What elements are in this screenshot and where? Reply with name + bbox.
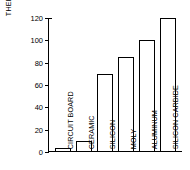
y-tick-mark [45,40,49,41]
y-tick-label: 80 [35,58,43,67]
bar-chart: THERMAL CONDUCTIVE (BTU/HR FT °F) 020406… [0,0,190,170]
y-tick-label: 60 [35,81,43,90]
y-axis-title: THERMAL CONDUCTIVE (BTU/HR FT °F) [2,0,24,40]
y-tick-mark [45,107,49,108]
y-tick-mark [45,152,49,153]
y-tick-label: 40 [35,103,43,112]
bar-label: SILICON CARBIDE [172,85,179,149]
y-axis-title-line-1: THERMAL CONDUCTIVE [5,0,13,16]
bar-label: CERAMIC [88,115,95,149]
bar-label: SILICON [109,120,116,149]
plot-area: 020406080100120 CIRCUIT BOARDCERAMICSILI… [48,18,182,152]
y-tick-label: 120 [30,14,43,23]
y-tick-label: 0 [39,148,43,157]
bar-label: MOLY [130,129,137,149]
y-tick-mark [45,130,49,131]
bar-label: CIRCUIT BOARD [67,91,74,149]
y-tick-label: 100 [30,36,43,45]
bar-label: ALUMINUM [151,110,158,149]
y-tick-mark [45,18,49,19]
y-tick-mark [45,85,49,86]
y-tick-label: 20 [35,125,43,134]
y-tick-mark [45,63,49,64]
